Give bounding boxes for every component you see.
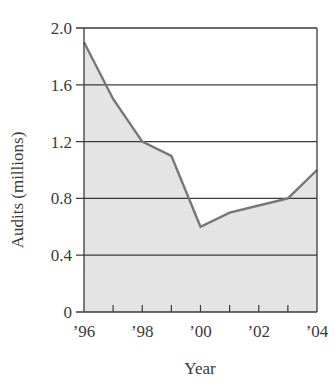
y-tick-label: 2.0 [51,19,72,38]
y-tick-label: 0.8 [51,189,72,208]
x-axis-ticks: ’96’98’00’02’04 [73,322,329,341]
x-tick-label: ’00 [189,322,212,341]
x-tick-label: ’98 [131,322,154,341]
area-fill [84,42,317,312]
x-tick-label: ’04 [306,322,329,341]
area-chart: 00.40.81.21.62.0 ’96’98’00’02’04 Year Au… [0,0,335,385]
plot-area [76,28,317,312]
x-tick-label: ’02 [247,322,270,341]
y-axis-ticks: 00.40.81.21.62.0 [51,19,73,322]
y-tick-label: 0 [64,303,73,322]
y-axis-title: Audits (millions) [8,132,27,249]
x-tick-label: ’96 [73,322,96,341]
y-tick-label: 0.4 [51,246,73,265]
y-tick-label: 1.2 [51,133,72,152]
y-tick-label: 1.6 [51,76,72,95]
x-axis-title: Year [184,359,216,378]
